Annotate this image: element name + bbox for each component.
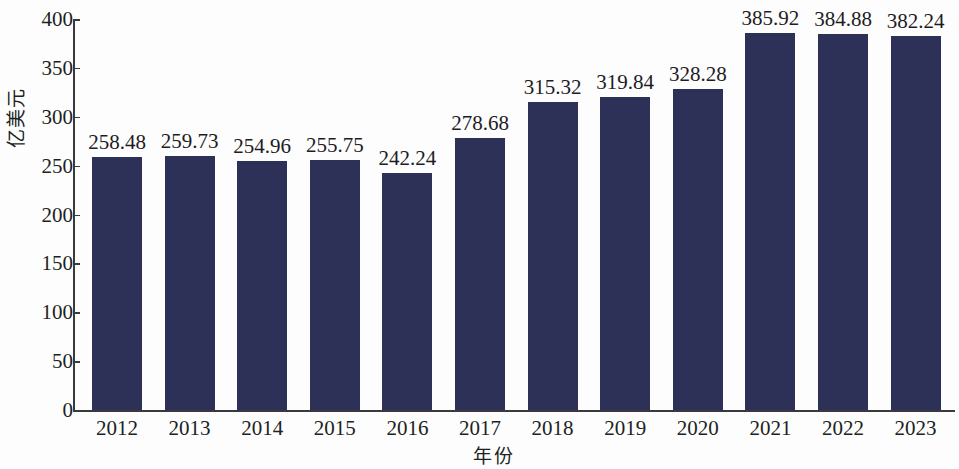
bar[interactable] bbox=[600, 97, 650, 410]
bar[interactable] bbox=[310, 160, 360, 410]
bar[interactable] bbox=[165, 156, 215, 410]
x-tick-label: 2022 bbox=[803, 416, 883, 441]
bar-value-label: 278.68 bbox=[435, 111, 525, 136]
bar[interactable] bbox=[891, 36, 941, 410]
x-tick-label: 2012 bbox=[77, 416, 157, 441]
bar-value-label: 382.24 bbox=[871, 9, 959, 34]
x-tick-label: 2015 bbox=[295, 416, 375, 441]
bar[interactable] bbox=[528, 102, 578, 410]
x-tick-label: 2018 bbox=[513, 416, 593, 441]
bar-value-label: 328.28 bbox=[653, 62, 743, 87]
x-tick-label: 2021 bbox=[730, 416, 810, 441]
bar[interactable] bbox=[382, 173, 432, 410]
bar[interactable] bbox=[818, 34, 868, 410]
bar-chart: 亿美元 050100150200250300350400 258.4820122… bbox=[0, 0, 959, 469]
x-tick-label: 2017 bbox=[440, 416, 520, 441]
bar[interactable] bbox=[745, 33, 795, 410]
x-tick-label: 2016 bbox=[367, 416, 447, 441]
bar[interactable] bbox=[237, 161, 287, 410]
plot-area: 258.482012259.732013254.962014255.752015… bbox=[0, 0, 959, 469]
x-tick-label: 2013 bbox=[150, 416, 230, 441]
x-tick-label: 2023 bbox=[876, 416, 956, 441]
x-tick-label: 2020 bbox=[658, 416, 738, 441]
bar[interactable] bbox=[92, 157, 142, 410]
bar[interactable] bbox=[455, 138, 505, 410]
x-tick-label: 2019 bbox=[585, 416, 665, 441]
bar[interactable] bbox=[673, 89, 723, 410]
bar-value-label: 242.24 bbox=[362, 146, 452, 171]
x-tick-label: 2014 bbox=[222, 416, 302, 441]
x-axis-title: 年份 bbox=[0, 441, 959, 468]
